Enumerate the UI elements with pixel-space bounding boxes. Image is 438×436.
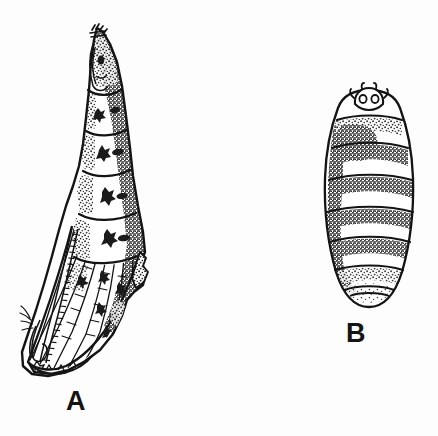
panel-label-a: A	[66, 388, 86, 415]
figure-container: A B	[0, 0, 438, 436]
panel-label-b: B	[346, 320, 366, 347]
panel-b-drawing	[325, 83, 413, 307]
panel-a-drawing	[20, 24, 148, 376]
pupae-illustration	[0, 0, 438, 436]
head-capsule	[350, 83, 388, 110]
